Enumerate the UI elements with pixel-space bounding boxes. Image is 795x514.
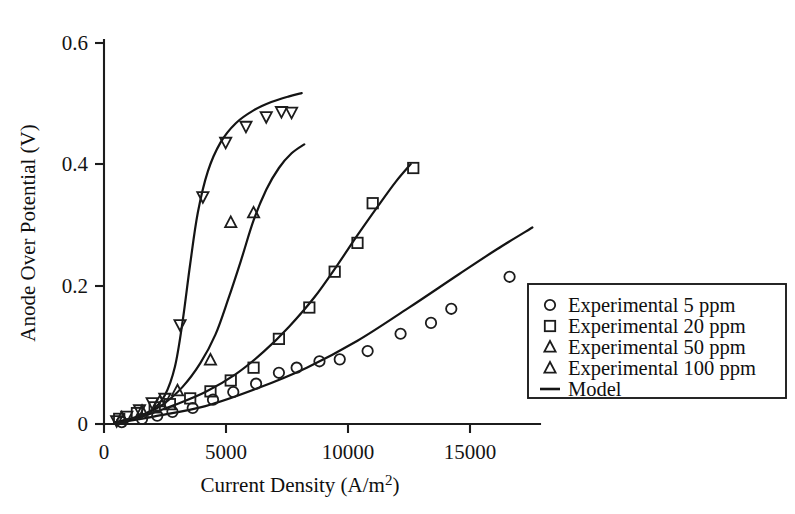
x-axis: 0 5000 10000 15000 Current Density (A/m2… bbox=[99, 424, 540, 497]
x-axis-title-main: Current Density (A/m bbox=[201, 473, 385, 497]
polarization-chart: 0.6 0.4 0.2 0 Anode Over Potential (V) 0… bbox=[0, 0, 795, 514]
data-point-2-5 bbox=[225, 216, 236, 227]
legend-item-2[interactable]: Experimental 50 ppm bbox=[544, 336, 745, 359]
data-point-2-3 bbox=[172, 385, 183, 396]
data-point-0-8 bbox=[274, 368, 284, 378]
chart-figure: 0.6 0.4 0.2 0 Anode Over Potential (V) 0… bbox=[0, 0, 795, 514]
legend-label-4: Model bbox=[568, 378, 622, 400]
model-curve-2 bbox=[114, 164, 411, 423]
data-point-0-6 bbox=[228, 387, 238, 397]
data-point-3-9 bbox=[261, 112, 272, 123]
x-axis-title: Current Density (A/m2) bbox=[201, 472, 400, 497]
legend: Experimental 5 ppmExperimental 20 ppmExp… bbox=[528, 284, 786, 400]
y-axis: 0.6 0.4 0.2 0 Anode Over Potential (V) bbox=[16, 31, 104, 436]
data-point-3-7 bbox=[220, 138, 231, 149]
legend-label-1: Experimental 20 ppm bbox=[568, 315, 746, 338]
legend-label-3: Experimental 100 ppm bbox=[568, 357, 756, 380]
x-ticklabel-15000: 15000 bbox=[444, 440, 497, 464]
y-ticklabel-0.4: 0.4 bbox=[62, 152, 89, 176]
data-point-0-7 bbox=[251, 378, 261, 388]
x-ticklabel-10000: 10000 bbox=[322, 440, 375, 464]
x-axis-title-tail: ) bbox=[392, 473, 399, 497]
legend-item-3[interactable]: Experimental 100 ppm bbox=[544, 357, 756, 380]
data-point-0-14 bbox=[426, 318, 436, 328]
data-point-3-8 bbox=[240, 122, 251, 133]
y-ticklabel-0: 0 bbox=[78, 412, 89, 436]
legend-item-1[interactable]: Experimental 20 ppm bbox=[545, 315, 746, 338]
data-point-0-16 bbox=[504, 272, 514, 282]
data-point-2-4 bbox=[205, 354, 216, 365]
data-point-0-11 bbox=[335, 354, 345, 364]
legend-item-0[interactable]: Experimental 5 ppm bbox=[545, 294, 736, 317]
legend-label-0: Experimental 5 ppm bbox=[568, 294, 735, 317]
data-point-3-11 bbox=[286, 108, 297, 119]
data-point-0-13 bbox=[395, 329, 405, 339]
model-curves-layer bbox=[114, 93, 532, 423]
y-axis-title: Anode Over Potential (V) bbox=[16, 124, 40, 342]
x-ticklabel-5000: 5000 bbox=[205, 440, 247, 464]
data-point-0-12 bbox=[362, 346, 372, 356]
legend-label-2: Experimental 50 ppm bbox=[568, 336, 746, 359]
data-point-3-5 bbox=[174, 320, 185, 331]
data-point-0-15 bbox=[446, 304, 456, 314]
x-axis-title-superscript: 2 bbox=[385, 472, 393, 488]
x-ticklabel-0: 0 bbox=[99, 440, 110, 464]
series-3-markers bbox=[111, 107, 297, 427]
data-point-1-8 bbox=[274, 334, 284, 344]
data-point-3-10 bbox=[276, 107, 287, 118]
y-ticklabel-0.2: 0.2 bbox=[62, 274, 88, 298]
y-ticklabel-0.6: 0.6 bbox=[62, 31, 88, 55]
